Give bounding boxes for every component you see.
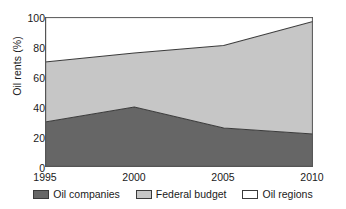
y-tick-label-40: 40 [1,103,45,114]
plot-area [45,17,313,167]
legend-swatch-oil-companies [33,190,49,199]
legend-item-federal-budget: Federal budget [136,189,227,200]
legend-item-oil-regions: Oil regions [242,189,312,200]
oil-rents-area-chart: Oil rents (%) 100 80 60 40 20 0 1995 200… [0,0,346,209]
legend-label-federal-budget: Federal budget [156,189,227,200]
x-tick-label-2000: 2000 [104,172,164,183]
x-tick-label-1995: 1995 [15,172,75,183]
x-tick-label-2010: 2010 [282,172,342,183]
x-tick-label-2005: 2005 [193,172,253,183]
chart-legend: Oil companies Federal budget Oil regions [0,189,346,200]
legend-item-oil-companies: Oil companies [33,189,120,200]
y-tick-label-20: 20 [1,133,45,144]
legend-label-oil-companies: Oil companies [53,189,120,200]
legend-swatch-federal-budget [136,190,152,199]
stacked-area-svg [45,17,313,167]
y-tick-label-60: 60 [1,73,45,84]
y-tick-label-80: 80 [1,43,45,54]
legend-swatch-oil-regions [242,190,258,199]
legend-label-oil-regions: Oil regions [262,189,312,200]
y-tick-label-100: 100 [1,13,45,24]
